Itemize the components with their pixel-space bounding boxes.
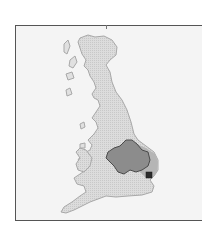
island-islay	[66, 88, 72, 96]
outer-hebrides	[64, 40, 70, 54]
island-skye	[69, 56, 77, 68]
anglesey	[80, 143, 85, 148]
location-marker-square[interactable]	[146, 172, 152, 178]
isle-of-man	[80, 122, 85, 129]
island-mull	[66, 72, 74, 80]
uk-map	[0, 0, 202, 241]
